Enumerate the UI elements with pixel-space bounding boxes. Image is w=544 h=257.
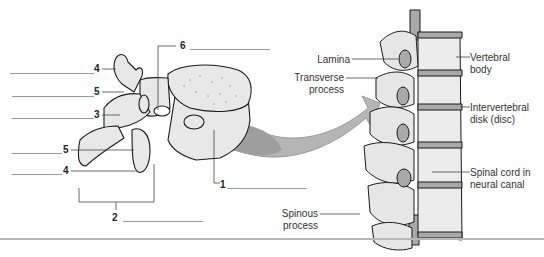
label-5-bottom: 5 [63, 145, 69, 155]
label-vertebral-body-line1: Vertebral [470, 52, 510, 63]
label-2: 2 [112, 213, 118, 223]
label-6: 6 [180, 41, 186, 51]
label-1: 1 [220, 180, 226, 190]
label-vertebral-body-line2: body [470, 64, 492, 75]
label-spinal-cord-line1: Spinal cord in [470, 167, 531, 178]
label-lamina: Lamina [300, 54, 350, 65]
answer-blank-4-top[interactable] [10, 73, 94, 74]
label-4-bottom: 4 [63, 166, 69, 176]
answer-blank-2[interactable] [123, 221, 203, 222]
answer-blank-5-top[interactable] [12, 96, 94, 97]
answer-blank-3[interactable] [12, 118, 94, 119]
label-intervertebral-disk-line1: Intervertebral [470, 102, 529, 113]
label-spinous-process-line1: Spinous [270, 208, 318, 219]
vertebral-column [364, 10, 462, 250]
label-5-top: 5 [94, 87, 100, 97]
label-3: 3 [94, 110, 100, 120]
answer-blank-6[interactable] [190, 49, 270, 50]
label-transverse-process-line2: process [280, 84, 344, 95]
label-spinous-process-line2: process [270, 220, 318, 231]
label-4-top: 4 [94, 64, 100, 74]
label-intervertebral-disk-line2: disk (disc) [470, 114, 515, 125]
answer-blank-4-bottom[interactable] [12, 174, 62, 175]
answer-blank-5-bottom[interactable] [12, 153, 62, 154]
bottom-divider [0, 238, 544, 240]
label-transverse-process-line1: Transverse [280, 72, 344, 83]
label-spinal-cord-line2: neural canal [470, 179, 524, 190]
answer-blank-1[interactable] [227, 188, 307, 189]
